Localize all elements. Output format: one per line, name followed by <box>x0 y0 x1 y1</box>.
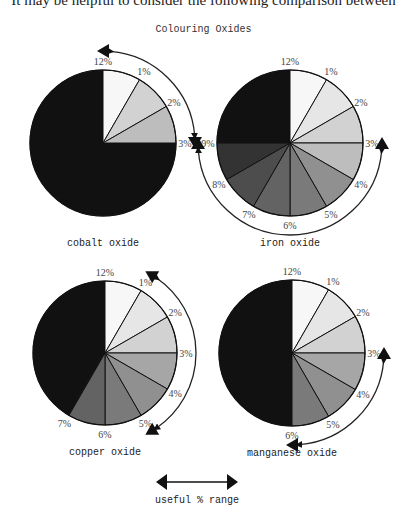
percent-label: 4% <box>168 388 181 399</box>
percent-label: 7% <box>58 418 71 429</box>
percent-label: 6% <box>98 429 111 440</box>
percent-label: 1% <box>137 66 150 77</box>
percent-label: 8% <box>212 179 225 190</box>
percent-label: 7% <box>242 209 255 220</box>
pie-caption: iron oxide <box>260 238 320 249</box>
pie-iron-oxide: 12%1%2%3%4%5%6%7%8%9%iron oxide <box>191 56 389 250</box>
full-strength-segment <box>219 280 292 426</box>
pie-copper-oxide: 12%1%2%3%4%5%6%7%copper oxide <box>33 267 196 459</box>
percent-label: 2% <box>168 307 181 318</box>
percent-label: 12% <box>96 267 114 278</box>
percent-label: 12% <box>283 266 301 277</box>
percent-label: 4% <box>356 389 369 400</box>
colouring-oxides-chart: 12%1%2%3%cobalt oxide12%1%2%3%4%5%6%7%8%… <box>0 0 407 520</box>
percent-label: 12% <box>94 56 112 67</box>
percent-label: 5% <box>326 419 339 430</box>
full-strength-segment <box>217 70 290 143</box>
pie-manganese-oxide: 12%1%2%3%4%5%6%manganese oxide <box>219 266 391 460</box>
percent-label: 4% <box>354 179 367 190</box>
legend-label: useful % range <box>155 495 239 506</box>
percent-label: 2% <box>356 307 369 318</box>
pie-caption: cobalt oxide <box>67 238 139 249</box>
percent-label: 12% <box>281 56 299 67</box>
pies-layer: 12%1%2%3%cobalt oxide12%1%2%3%4%5%6%7%8%… <box>30 44 391 459</box>
legend-arrow-right-icon <box>227 474 238 490</box>
percent-label: 2% <box>167 97 180 108</box>
percent-label: 5% <box>324 209 337 220</box>
legend: useful % range <box>155 474 239 506</box>
pie-cobalt-oxide: 12%1%2%3%cobalt oxide <box>30 44 202 249</box>
legend-arrow-left-icon <box>156 474 167 490</box>
percent-label: 2% <box>354 97 367 108</box>
percent-label: 3% <box>179 348 192 359</box>
pie-caption: manganese oxide <box>247 448 337 459</box>
percent-label: 6% <box>283 220 296 231</box>
percent-label: 1% <box>326 276 339 287</box>
percent-label: 1% <box>324 66 337 77</box>
pie-caption: copper oxide <box>69 447 141 458</box>
